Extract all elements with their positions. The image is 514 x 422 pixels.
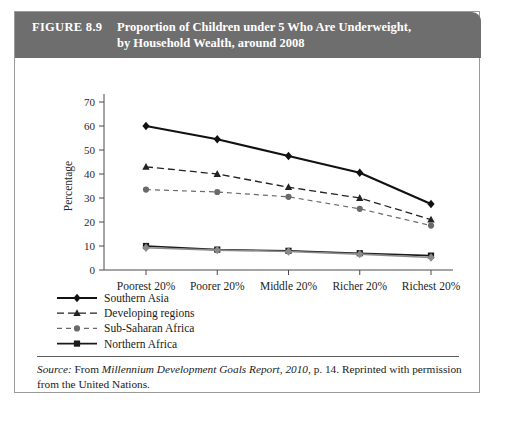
x-axis-tick-label: Richest 20% xyxy=(402,280,461,292)
x-axis-tick-label: Poorest 20% xyxy=(117,280,176,292)
figure-card: FIGURE 8.9 Proportion of Children under … xyxy=(14,11,480,393)
chart-plot-area: 010203040506070PercentagePoorest 20%Poor… xyxy=(15,58,481,348)
figure-number: FIGURE 8.9 xyxy=(32,20,102,35)
legend-label: Developing regions xyxy=(104,307,195,320)
series-1 xyxy=(142,163,434,223)
y-axis-tick-label: 0 xyxy=(90,264,96,276)
y-axis-tick-label: 20 xyxy=(84,216,96,228)
data-point xyxy=(356,169,363,177)
data-point xyxy=(285,194,291,200)
figure-header: FIGURE 8.9 Proportion of Children under … xyxy=(15,12,481,58)
legend-marker xyxy=(73,294,80,302)
data-point xyxy=(214,135,221,143)
y-axis-tick-label: 60 xyxy=(84,120,96,132)
legend-label: Northern Africa xyxy=(104,338,177,348)
legend-item-1: Developing regions xyxy=(57,307,195,320)
data-point xyxy=(142,122,149,130)
series-4 xyxy=(142,243,434,261)
data-point xyxy=(142,163,149,170)
y-axis-tick-label: 30 xyxy=(84,192,96,204)
source-before: From xyxy=(72,363,102,375)
data-point xyxy=(285,152,292,160)
legend-item-3: Northern Africa xyxy=(57,338,177,348)
source-italic-title: Millennium Development Goals Report, 201… xyxy=(102,363,308,375)
y-axis-tick-label: 50 xyxy=(84,144,96,156)
x-axis-tick-label: Richer 20% xyxy=(332,280,387,292)
line-chart: 010203040506070PercentagePoorest 20%Poor… xyxy=(15,58,481,348)
legend-marker xyxy=(74,325,80,331)
x-axis-tick-label: Middle 20% xyxy=(260,280,318,292)
data-point xyxy=(357,206,363,212)
legend-item-2: Sub-Saharan Africa xyxy=(57,322,194,334)
y-axis-tick-label: 10 xyxy=(84,240,96,252)
data-point xyxy=(214,189,220,195)
legend-item-0: Southern Asia xyxy=(57,292,169,304)
figure-title: Proportion of Children under 5 Who Are U… xyxy=(117,19,467,51)
data-point xyxy=(428,223,434,229)
source-divider xyxy=(37,356,459,357)
source-note: Source: From Millennium Development Goal… xyxy=(37,362,465,391)
y-axis-title: Percentage xyxy=(62,161,75,211)
figure-title-line-2: by Household Wealth, around 2008 xyxy=(117,35,467,51)
series-line xyxy=(146,126,431,204)
y-axis-tick-label: 40 xyxy=(84,168,96,180)
series-line xyxy=(146,167,431,220)
source-prefix: Source: xyxy=(37,363,72,375)
data-point xyxy=(143,187,149,193)
legend-label: Sub-Saharan Africa xyxy=(104,322,194,334)
y-axis-tick-label: 70 xyxy=(84,96,96,108)
legend-marker xyxy=(74,341,80,347)
x-axis-tick-label: Poorer 20% xyxy=(190,280,245,292)
legend-label: Southern Asia xyxy=(104,292,169,304)
data-point xyxy=(285,183,292,190)
data-point xyxy=(427,200,434,208)
figure-title-line-1: Proportion of Children under 5 Who Are U… xyxy=(117,19,467,35)
